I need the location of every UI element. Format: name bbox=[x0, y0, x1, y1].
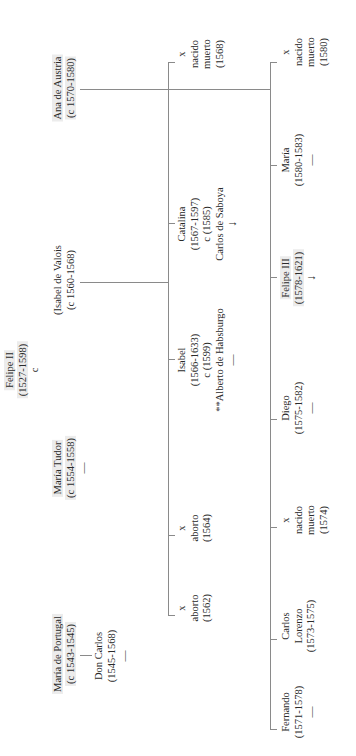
tick-austria-6 bbox=[270, 62, 277, 63]
tick-austria-1 bbox=[270, 639, 277, 640]
child-nacido-muerto-1568: x nacido muerto (1568) bbox=[176, 39, 226, 69]
tick-valois-0 bbox=[168, 615, 175, 616]
child-fernando: Fernando (1571-1578) — bbox=[280, 686, 317, 739]
child-maria: María (1580-1583) — bbox=[280, 134, 317, 187]
child-aborto-1564: x aborto (1564) bbox=[176, 514, 214, 542]
marriage-marker: c bbox=[29, 368, 40, 373]
tick-austria-3 bbox=[270, 419, 277, 420]
child-aborto-1562: x aborto (1562) bbox=[176, 594, 214, 622]
tick-valois-2 bbox=[168, 359, 175, 360]
child-diego: Diego (1575-1582) — bbox=[280, 382, 317, 435]
tick-austria-4 bbox=[270, 277, 277, 278]
root-felipe-ii: Felipe II (1527-1598) c bbox=[4, 342, 42, 399]
tick-austria-2 bbox=[270, 527, 277, 528]
bracket-valois bbox=[168, 62, 169, 616]
connector-valois bbox=[80, 282, 168, 283]
connector-portugal bbox=[80, 655, 92, 656]
child-nacido-muerto-1580: x nacido muerto (1580) bbox=[280, 37, 330, 67]
descendants-arrow-icon: ↓ bbox=[305, 250, 318, 307]
child-isabel: Isabel (1566-1633) c (1599) **Alberto de… bbox=[176, 308, 238, 412]
child-nacido-muerto-1574: x nacido muerto (1574) bbox=[280, 505, 330, 535]
family-tree: Felipe II (1527-1598) c María de Portuga… bbox=[0, 0, 356, 756]
tick-valois-1 bbox=[168, 535, 175, 536]
spouse-isabel-de-valois: (Isabel de Valois (c 1560-1568) bbox=[52, 245, 77, 315]
child-don-carlos: Don Carlos (1545-1568) — bbox=[93, 630, 130, 683]
tick-austria-0 bbox=[270, 729, 277, 730]
root-dates: (1527-1598) bbox=[17, 342, 28, 399]
bracket-austria bbox=[270, 62, 271, 730]
spouse-maria-tudor: María Tudor (c 1554-1558) — bbox=[52, 436, 89, 500]
child-carlos-lorenzo: Carlos Lorenzo (1573-1575) bbox=[280, 600, 318, 653]
descendants-arrow-icon: ↓ bbox=[226, 187, 239, 261]
root-name: Felipe II bbox=[4, 350, 15, 390]
connector-austria bbox=[80, 89, 270, 90]
tick-austria-5 bbox=[270, 165, 277, 166]
child-felipe-iii: Felipe III (1578-1621) ↓ bbox=[280, 250, 318, 307]
spouse-maria-de-portugal: María de Portugal (c 1543-1545) bbox=[52, 614, 77, 694]
no-issue-dash: — bbox=[77, 436, 89, 500]
tick-valois-3 bbox=[168, 223, 175, 224]
spouse-ana-de-austria: Ana de Austria (c 1570-1580) bbox=[52, 55, 77, 122]
tick-valois-4 bbox=[168, 62, 175, 63]
child-catalina: Catalina (1567-1597) c (1585) Carlos de … bbox=[176, 187, 239, 261]
